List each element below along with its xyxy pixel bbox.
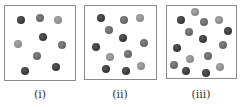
particle-medium	[124, 50, 132, 58]
particle-dark	[202, 69, 210, 77]
particle-medium	[105, 26, 113, 34]
particle-medium	[200, 18, 208, 26]
particle-light	[137, 62, 145, 70]
particle-medium	[140, 39, 148, 47]
particle-dark	[102, 65, 110, 73]
particle-light	[186, 55, 194, 63]
particle-dark	[199, 35, 207, 43]
particle-medium	[219, 41, 227, 49]
particle-medium	[58, 41, 66, 49]
particle-dark	[39, 33, 47, 41]
particle-medium	[170, 61, 178, 69]
particle-medium	[36, 14, 44, 22]
particle-dark	[97, 14, 105, 22]
particle-light	[54, 16, 62, 24]
particle-medium	[33, 52, 41, 60]
particle-dark	[224, 27, 232, 35]
particle-dark	[119, 34, 127, 42]
particle-dark	[21, 67, 29, 75]
particle-dark	[52, 63, 60, 71]
particle-light	[106, 53, 114, 61]
particle-dark	[182, 67, 190, 75]
particle-light	[191, 8, 199, 16]
panel-label-ii: (ii)	[112, 88, 128, 101]
particle-dark	[122, 67, 130, 75]
panel-label-i: (i)	[34, 88, 46, 101]
particle-light	[14, 40, 22, 48]
particle-medium	[120, 16, 128, 24]
particle-dark	[177, 16, 185, 24]
particle-dark	[17, 16, 25, 24]
particle-light	[216, 63, 224, 71]
panel-label-iii: (iii)	[191, 88, 210, 101]
particle-medium	[185, 28, 193, 36]
particle-medium	[204, 52, 212, 60]
particle-dark	[92, 43, 100, 51]
particle-dark	[173, 44, 181, 52]
particle-light	[215, 16, 223, 24]
particle-light	[136, 14, 144, 22]
